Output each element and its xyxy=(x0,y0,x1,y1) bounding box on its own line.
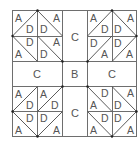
sashing-top-label: C xyxy=(71,31,79,43)
quilt-block-diagram: C C B C C A D A D D A A D A D A D D A D … xyxy=(0,0,139,150)
unit-label: A xyxy=(90,124,97,136)
unit-label: D xyxy=(114,23,122,35)
unit-label: A xyxy=(15,48,22,60)
unit-label: A xyxy=(40,88,47,100)
center-square-label: B xyxy=(71,68,78,80)
unit-label: D xyxy=(101,87,109,99)
unit-label: A xyxy=(127,124,134,136)
sashing-left-label: C xyxy=(33,68,41,80)
unit-label: A xyxy=(15,88,22,100)
unit-label: D xyxy=(26,36,34,48)
unit-label: D xyxy=(51,99,59,111)
unit-label: D xyxy=(40,23,48,35)
sashing-right-label: C xyxy=(108,68,116,80)
unit-label: A xyxy=(126,48,133,60)
unit-label: D xyxy=(40,112,48,124)
unit-label: A xyxy=(53,36,60,48)
unit-label: A xyxy=(101,48,108,60)
unit-label: D xyxy=(26,23,34,35)
unit-label: A xyxy=(127,12,134,24)
unit-label: D xyxy=(90,37,98,49)
unit-label: D xyxy=(26,99,34,111)
unit-label: A xyxy=(53,12,60,24)
unit-label: D xyxy=(114,99,122,111)
unit-label: D xyxy=(40,48,48,60)
unit-label: D xyxy=(114,37,122,49)
unit-label: A xyxy=(127,87,134,99)
unit-label: D xyxy=(101,23,109,35)
unit-label: A xyxy=(15,124,22,136)
unit-label: D xyxy=(114,112,122,124)
unit-label: D xyxy=(26,112,34,124)
unit-label: A xyxy=(53,124,60,136)
sashing-bottom-label: C xyxy=(71,107,79,119)
unit-label: A xyxy=(90,99,97,111)
unit-label: A xyxy=(90,12,97,24)
unit-label: A xyxy=(15,12,22,24)
unit-label: D xyxy=(101,112,109,124)
